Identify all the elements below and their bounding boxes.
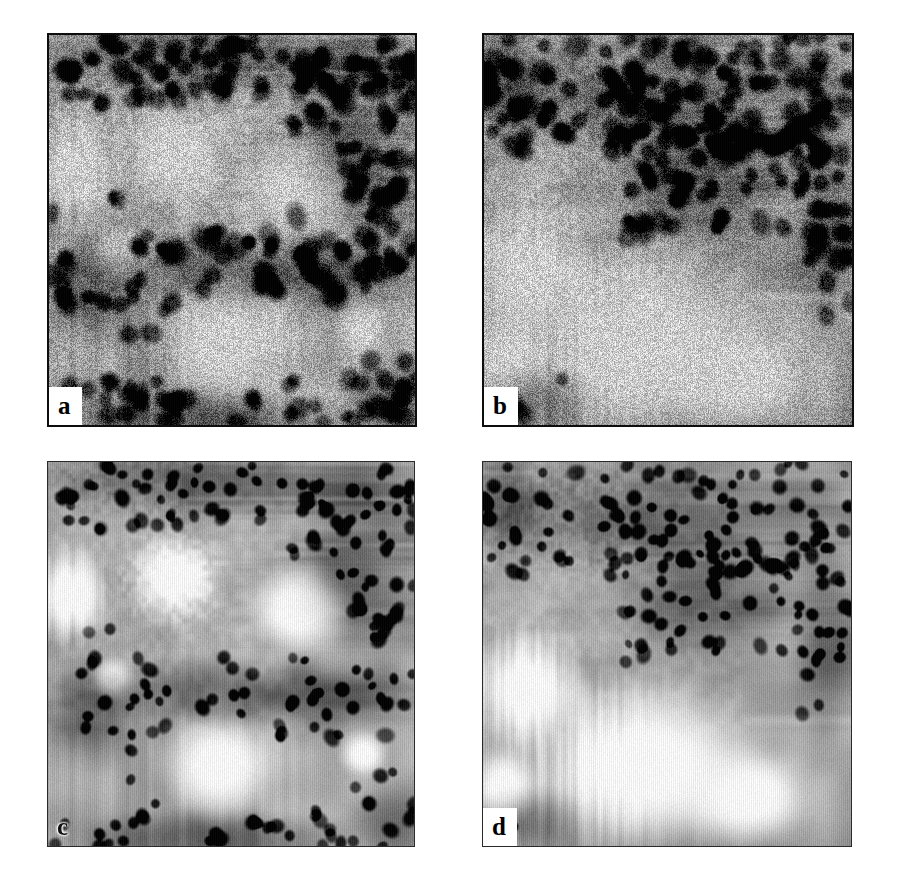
- micrograph-image-d: [483, 462, 851, 846]
- panel-label-a: a: [49, 387, 82, 425]
- micrograph-image-b: [484, 35, 852, 425]
- micrograph-panel-a: a: [47, 33, 417, 427]
- micrograph-image-a: [49, 35, 415, 425]
- figure-root: abcd: [0, 0, 897, 877]
- panel-label-c: c: [48, 808, 79, 846]
- micrograph-panel-c: c: [47, 461, 415, 847]
- micrograph-image-c: [48, 462, 414, 846]
- panel-label-b: b: [484, 387, 518, 425]
- micrograph-panel-b: b: [482, 33, 854, 427]
- panel-label-d: d: [483, 808, 517, 846]
- micrograph-panel-d: d: [482, 461, 852, 847]
